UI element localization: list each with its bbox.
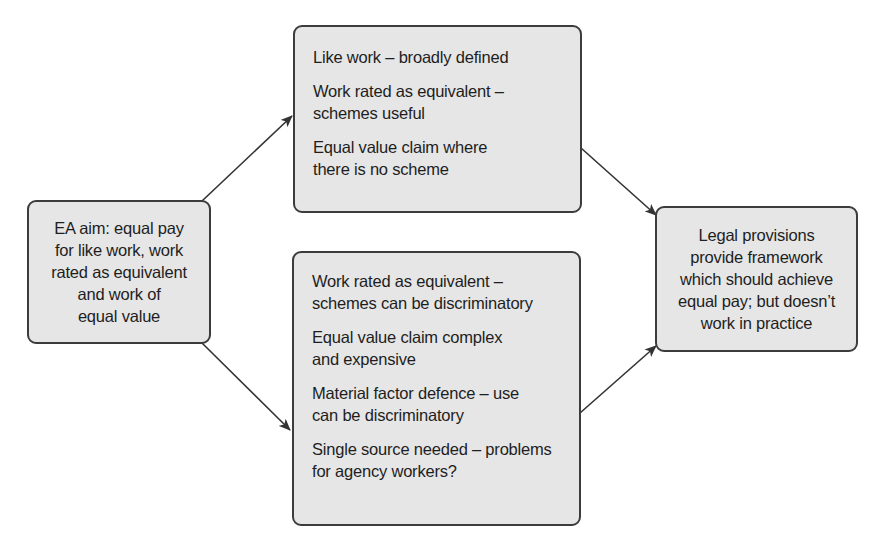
- strength-item: Equal value claim where there is no sche…: [313, 136, 513, 180]
- arrow-ea-to-strengths: [202, 116, 292, 201]
- node-conclusion-line: provide framework: [678, 246, 835, 268]
- arrow-ea-to-weaknesses: [202, 343, 290, 430]
- weakness-item: Work rated as equivalent – schemes can b…: [312, 270, 552, 314]
- node-conclusion: Legal provisions provide framework which…: [655, 206, 858, 352]
- arrow-strengths-to-conclusion: [581, 148, 656, 215]
- node-ea-aim: EA aim: equal pay for like work, work ra…: [27, 200, 211, 344]
- node-conclusion-text: Legal provisions provide framework which…: [678, 224, 835, 334]
- weakness-item: Equal value claim complex and expensive: [312, 326, 512, 370]
- strength-item: Work rated as equivalent – schemes usefu…: [313, 80, 513, 124]
- node-ea-aim-line: EA aim: equal pay: [51, 217, 187, 239]
- node-ea-aim-line: rated as equivalent: [51, 261, 187, 283]
- node-strengths: Like work – broadly defined Work rated a…: [293, 25, 582, 213]
- node-ea-aim-line: and work of: [51, 283, 187, 305]
- node-ea-aim-text: EA aim: equal pay for like work, work ra…: [51, 217, 187, 327]
- node-conclusion-line: equal pay; but doesn’t: [678, 290, 835, 312]
- weakness-item: Single source needed – problems for agen…: [312, 438, 557, 482]
- arrow-weaknesses-to-conclusion: [580, 346, 656, 413]
- weakness-item: Material factor defence – use can be dis…: [312, 382, 542, 426]
- strength-item: Like work – broadly defined: [313, 46, 533, 68]
- node-conclusion-line: which should achieve: [678, 268, 835, 290]
- node-ea-aim-line: equal value: [51, 305, 187, 327]
- node-conclusion-line: Legal provisions: [678, 224, 835, 246]
- node-weaknesses: Work rated as equivalent – schemes can b…: [292, 251, 581, 526]
- node-conclusion-line: work in practice: [678, 312, 835, 334]
- node-ea-aim-line: for like work, work: [51, 239, 187, 261]
